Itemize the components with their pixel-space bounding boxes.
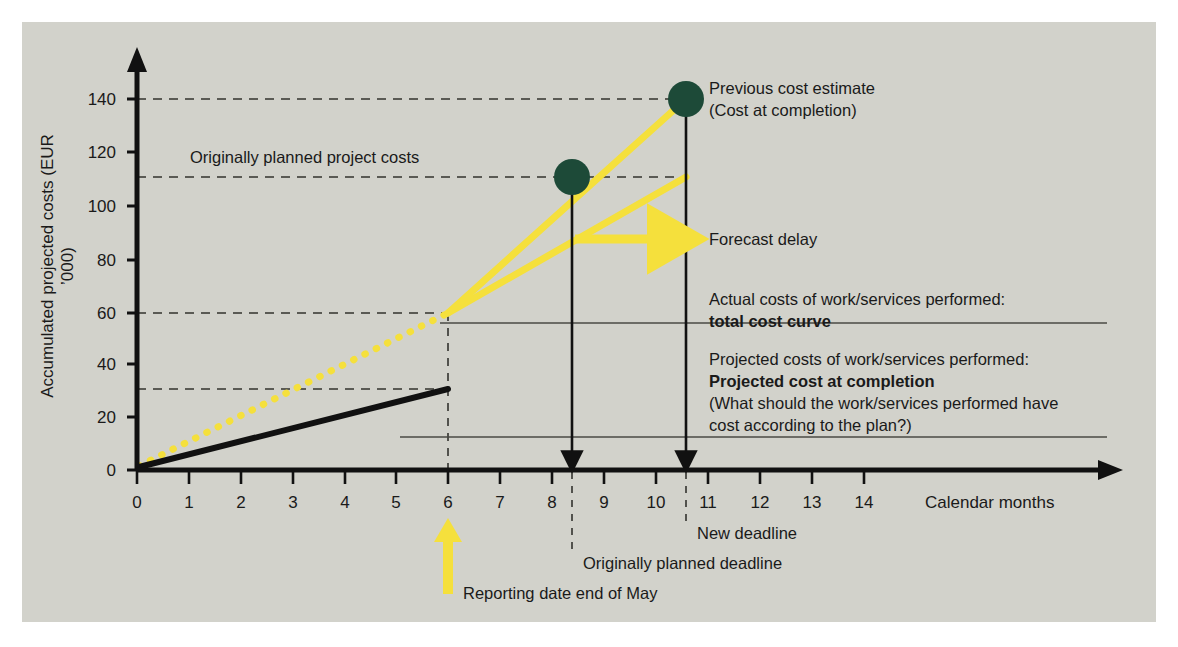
y-tick-140: 140 [58,89,116,111]
x-axis-title: Calendar months [925,492,1054,514]
annotation-projected-costs-line2: Projected cost at completion [709,371,935,392]
x-tick-0: 0 [117,492,157,514]
annotation-projected-costs-line3: (What should the work/services performed… [709,393,1058,414]
forecast-line-to-planned-costs [448,177,686,313]
reporting-date-arrow [434,518,462,594]
y-tick-0: 0 [68,460,116,482]
x-tick-8: 8 [532,492,572,514]
gridlines-horizontal [137,99,686,389]
y-tick-20: 20 [68,407,116,429]
annotation-originally-planned-deadline: Originally planned deadline [583,553,782,574]
x-tick-5: 5 [376,492,416,514]
x-axis [137,460,1123,484]
x-tick-3: 3 [273,492,313,514]
forecast-line-to-cost-estimate [448,99,686,313]
x-tick-7: 7 [480,492,520,514]
x-tick-13: 13 [792,492,832,514]
y-tick-40: 40 [68,354,116,376]
annotation-actual-costs-line2: total cost curve [709,311,831,332]
annotation-reporting-date: Reporting date end of May [463,583,657,604]
x-tick-12: 12 [740,492,780,514]
marker-previous-cost-estimate[interactable] [668,81,704,117]
annotation-originally-planned-project-costs: Originally planned project costs [190,147,419,168]
x-tick-10: 10 [636,492,676,514]
deadline-guidelines-below-axis [572,472,686,556]
chart-plot-area [0,0,1178,647]
marker-originally-planned-project-costs[interactable] [554,159,590,195]
annotation-new-deadline: New deadline [697,523,797,544]
x-tick-2: 2 [221,492,261,514]
y-tick-120: 120 [58,142,116,164]
annotation-projected-costs-line4: cost according to the plan?) [709,415,912,436]
x-tick-14: 14 [844,492,884,514]
x-tick-6: 6 [428,492,468,514]
chart-page: Accumulated projected costs (EUR ’000) 0… [0,0,1178,647]
annotation-previous-cost-estimate-line2: (Cost at completion) [709,100,857,121]
annotation-actual-costs-line1: Actual costs of work/services performed: [709,289,1005,310]
x-tick-9: 9 [584,492,624,514]
y-tick-80: 80 [68,250,116,272]
x-tick-1: 1 [169,492,209,514]
x-tick-4: 4 [325,492,365,514]
annotation-forecast-delay: Forecast delay [709,229,817,250]
y-axis [127,47,147,470]
annotation-previous-cost-estimate-line1: Previous cost estimate [709,78,875,99]
y-tick-100: 100 [58,196,116,218]
actual-cost-curve [139,389,448,467]
annotation-projected-costs-line1: Projected costs of work/services perform… [709,349,1029,370]
y-tick-60: 60 [68,303,116,325]
x-tick-11: 11 [688,492,728,514]
